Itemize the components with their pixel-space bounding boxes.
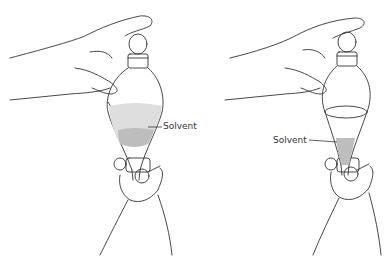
right-funnel-panel: Solvent xyxy=(195,0,390,262)
solvent-layer xyxy=(118,128,154,147)
solvent-leader-line xyxy=(309,140,337,142)
lower-hand-outline xyxy=(119,168,162,202)
left-funnel-illustration xyxy=(0,0,195,262)
right-funnel-illustration xyxy=(195,0,390,262)
solvent-layer xyxy=(336,138,355,165)
upper-hand-outline xyxy=(10,16,152,58)
solvent-label-right: Solvent xyxy=(273,135,307,145)
solvent-label-left: Solvent xyxy=(163,121,197,131)
stopcock-knob xyxy=(325,158,337,170)
interface-ellipse xyxy=(325,106,367,118)
lower-hand-outline xyxy=(330,166,372,200)
left-funnel-panel: Solvent xyxy=(0,0,195,262)
stopcock-knob xyxy=(114,158,126,170)
